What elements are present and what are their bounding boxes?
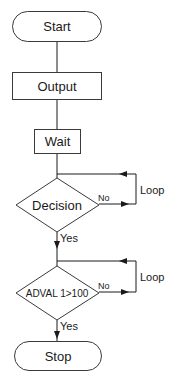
loop-2-arrow-right — [121, 289, 129, 295]
node-decision-1-label: Decision — [32, 198, 82, 213]
node-wait-label: Wait — [45, 134, 71, 149]
loop-label-2: Loop — [140, 271, 164, 283]
yes-2-arrow — [54, 331, 60, 339]
node-start: Start — [13, 12, 102, 42]
node-output-label: Output — [37, 79, 76, 94]
node-stop-label: Stop — [45, 349, 72, 364]
loop-1-arrow-left — [119, 171, 127, 177]
loop-2-arrow-left — [119, 258, 127, 264]
node-decision-1: Decision — [16, 178, 99, 232]
node-decision-2-label: ADVAL 1>100 — [26, 288, 89, 299]
no-label-2: No — [98, 281, 110, 291]
yes-label-1: Yes — [60, 232, 78, 244]
node-output: Output — [13, 73, 102, 100]
node-wait: Wait — [35, 130, 81, 154]
no-label-1: No — [98, 193, 110, 203]
loop-label-1: Loop — [140, 184, 164, 196]
flowchart: Start Output Wait Decision ADVAL 1>100 S… — [0, 0, 174, 376]
yes-label-2: Yes — [60, 320, 78, 332]
node-start-label: Start — [43, 19, 71, 34]
loop-1-arrow-right — [121, 201, 129, 207]
node-stop: Stop — [15, 342, 102, 371]
node-decision-2: ADVAL 1>100 — [16, 266, 99, 320]
